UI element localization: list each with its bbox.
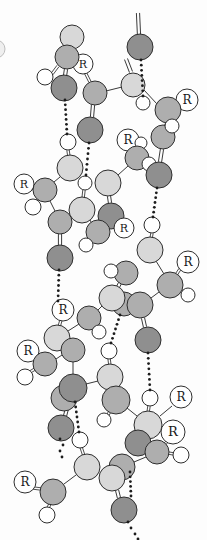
medium-atom — [83, 81, 107, 105]
single-bond — [151, 292, 159, 298]
hydrogen-bond-dot — [152, 216, 155, 219]
dark-atom — [48, 415, 74, 441]
hydrogen-atom — [60, 134, 76, 150]
hydrogen-bond-dot — [87, 152, 90, 155]
hydrogen-bond-dot — [57, 279, 60, 282]
hydrogen-bond-dot — [117, 318, 120, 321]
single-bond — [98, 306, 102, 310]
hydrogen-bond-dot — [148, 373, 151, 376]
single-bond — [56, 355, 62, 359]
hydrogen-bond-dot — [141, 89, 144, 92]
hydrogen-bond-dot — [156, 187, 159, 190]
hydrogen-bond-dot — [76, 416, 79, 419]
hydrogen-bond-dot — [148, 378, 151, 381]
double-bond — [94, 105, 95, 117]
hydrogen-bond-dot — [147, 357, 150, 360]
hydrogen-bond-dot — [147, 362, 150, 365]
hydrogen-bond-dot — [141, 84, 144, 87]
light-atom — [99, 465, 125, 491]
medium-atom — [48, 210, 72, 234]
medium-atom — [61, 338, 85, 362]
hydrogen-bond-dot — [65, 118, 68, 121]
hydrogen-bond-dot — [149, 389, 152, 392]
hydrogen-bond-dot — [116, 323, 119, 326]
hydrogen-bond-dot — [87, 147, 90, 150]
double-bond — [141, 318, 143, 327]
double-bond — [111, 196, 112, 203]
alpha-helix-ball-and-stick-figure: RRRRRRRRRRR — [0, 0, 207, 540]
stick-bond — [51, 65, 57, 73]
hydrogen-bond-dot — [155, 191, 158, 194]
hydrogen-bond-dot — [57, 294, 60, 297]
hydrogen-atom — [142, 390, 158, 406]
dark-atom — [127, 34, 153, 60]
hydrogen-atom — [17, 369, 33, 385]
hydrogen-bond-dot — [64, 99, 67, 102]
hydrogen-bond-dot — [141, 79, 144, 82]
medium-atom — [155, 97, 181, 123]
hydrogen-atom — [25, 199, 41, 215]
medium-atom — [102, 386, 130, 414]
hydrogen-atom — [101, 343, 117, 359]
hydrogen-atom — [79, 238, 93, 252]
hydrogen-atom — [97, 413, 111, 427]
hydrogen-bond-dot — [86, 163, 89, 166]
hydrogen-bond-dot — [129, 485, 132, 488]
double-bond — [107, 196, 108, 203]
r-group-label: R — [182, 93, 192, 107]
dark-atom — [135, 327, 161, 353]
light-atom — [95, 170, 121, 196]
hydrogen-atom — [173, 447, 189, 463]
single-bond — [160, 406, 172, 416]
r-group-label: R — [23, 344, 33, 358]
hydrogen-atom — [144, 217, 160, 233]
medium-atom — [145, 440, 169, 464]
hydrogen-bond-dot — [148, 383, 151, 386]
hydrogen-bond-dot — [142, 95, 145, 98]
hydrogen-bond-dot — [140, 74, 143, 77]
medium-atom — [33, 352, 57, 376]
hydrogen-bond-dot — [130, 495, 133, 498]
r-group-label: R — [58, 303, 68, 317]
double-bond — [140, 13, 141, 35]
hydrogen-bond-dot — [129, 475, 132, 478]
medium-atom — [127, 292, 153, 318]
hydrogen-bond-dot — [127, 521, 130, 524]
hydrogen-atom — [136, 96, 150, 110]
double-bond — [119, 490, 121, 498]
hydrogen-atom — [181, 288, 195, 302]
single-bond — [50, 201, 55, 211]
hydrogen-bond-dot — [65, 128, 68, 131]
double-bond — [162, 149, 164, 162]
hydrogen-bond-dot — [154, 201, 157, 204]
dark-atom — [47, 245, 73, 271]
r-group-label: R — [168, 424, 179, 439]
r-group-label: R — [20, 475, 30, 489]
hydrogen-bond-dot — [130, 527, 133, 530]
hydrogen-bond-dot — [64, 113, 67, 116]
hydrogen-atom — [39, 507, 55, 523]
hydrogen-bond-dot — [147, 367, 150, 370]
dark-atom — [59, 374, 87, 402]
hydrogen-bond-dot — [113, 332, 116, 335]
double-bond — [115, 490, 117, 498]
single-bond — [86, 381, 98, 384]
medium-atom — [157, 272, 183, 298]
single-bond — [134, 457, 146, 462]
dark-atom — [77, 117, 103, 143]
hydrogen-bond-dot — [64, 108, 67, 111]
hydrogen-bond-dot — [58, 269, 61, 272]
light-atom — [69, 197, 95, 223]
double-bond — [158, 149, 160, 162]
hydrogen-bond-dot — [76, 421, 79, 424]
hydrogen-bond-dot — [57, 289, 60, 292]
r-group-label: R — [123, 133, 133, 147]
single-bond — [118, 166, 128, 175]
hydrogen-bond-dot — [61, 456, 64, 459]
light-atom — [57, 155, 83, 181]
hydrogen-bond-dot — [119, 314, 122, 317]
hydrogen-bond-dot — [153, 206, 156, 209]
hydrogen-atom — [72, 432, 88, 448]
hydrogen-bond-dot — [85, 174, 88, 177]
hydrogen-atom — [104, 264, 118, 278]
